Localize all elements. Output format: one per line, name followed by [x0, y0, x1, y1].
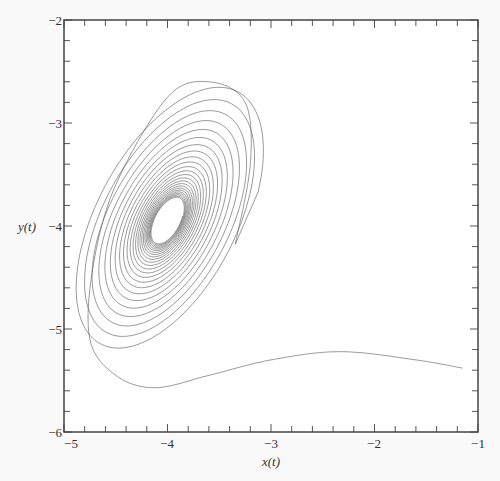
- x-tick-label: −4: [160, 436, 174, 451]
- y-tick-label: −4: [48, 219, 62, 234]
- x-tick-labels: −5 −4 −3 −2 −1: [64, 436, 485, 451]
- plot-area: [64, 20, 478, 432]
- y-tick-label: −6: [48, 425, 62, 440]
- y-tick-label: −5: [48, 322, 62, 337]
- x-tick-label: −3: [264, 436, 278, 451]
- phase-plane-chart: −5 −4 −3 −2 −1 −2 −3 −4 −5 −6 x(t) y(t): [0, 0, 500, 481]
- x-tick-label: −2: [367, 436, 381, 451]
- x-axis-label: x(t): [261, 454, 280, 469]
- y-tick-label: −3: [48, 116, 62, 131]
- y-tick-labels: −2 −3 −4 −5 −6: [48, 13, 62, 440]
- x-tick-label: −1: [471, 436, 485, 451]
- y-axis-label: y(t): [16, 219, 36, 234]
- y-tick-label: −2: [48, 13, 62, 28]
- x-tick-label: −5: [64, 436, 78, 451]
